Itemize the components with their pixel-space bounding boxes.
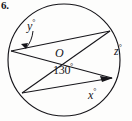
angle-label-x: x° [88, 88, 97, 101]
degree-symbol-y: ° [32, 18, 35, 27]
figure-page: 6. y° z° x° O 130° [0, 0, 132, 121]
angle-label-130: 130° [53, 63, 73, 76]
degree-symbol-z: ° [119, 43, 122, 52]
angle-label-z: z° [114, 44, 122, 57]
degree-symbol-x: ° [93, 87, 96, 96]
angle-label-130-text: 130 [53, 63, 70, 77]
chord-c-d [22, 78, 112, 93]
problem-number: 6. [1, 0, 9, 11]
center-label-o: O [55, 47, 64, 59]
circle-geometry-figure [0, 0, 132, 121]
angle-label-y: y° [27, 19, 36, 32]
degree-symbol-130: ° [70, 62, 73, 71]
circle-outline [8, 4, 120, 116]
